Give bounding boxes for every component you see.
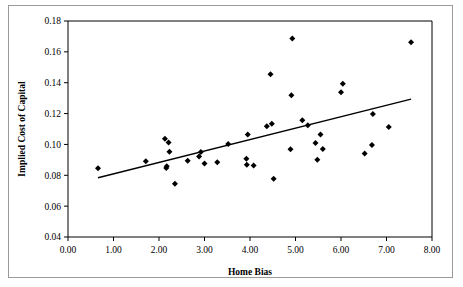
data-point	[172, 181, 178, 187]
y-axis-tick-labels: 0.040.060.080.100.120.140.160.18	[44, 16, 61, 242]
x-tick-label: 1.00	[105, 245, 122, 255]
data-point	[318, 131, 324, 137]
data-point	[299, 117, 305, 123]
y-tick-label: 0.06	[44, 202, 61, 212]
data-point	[370, 111, 376, 117]
data-point	[287, 146, 293, 152]
x-tick-label: 0.00	[60, 245, 77, 255]
data-point	[369, 142, 375, 148]
data-point	[267, 71, 273, 77]
data-point	[313, 140, 319, 146]
x-tick-label: 5.00	[287, 245, 304, 255]
data-point	[288, 92, 294, 98]
data-point	[214, 159, 220, 165]
data-point	[289, 35, 295, 41]
x-tick-label: 8.00	[424, 245, 441, 255]
data-point	[185, 158, 191, 164]
x-tick-label: 3.00	[196, 245, 213, 255]
data-point	[320, 146, 326, 152]
x-tick-label: 6.00	[333, 245, 350, 255]
data-point	[244, 162, 250, 168]
y-tick-label: 0.18	[44, 16, 61, 26]
data-point	[386, 124, 392, 130]
y-tick-label: 0.10	[44, 140, 61, 150]
data-point	[408, 39, 414, 45]
data-point	[362, 151, 368, 157]
axis-tick-marks	[64, 21, 432, 241]
x-tick-label: 2.00	[151, 245, 168, 255]
x-tick-label: 4.00	[242, 245, 259, 255]
y-tick-label: 0.16	[44, 47, 61, 57]
data-point	[271, 176, 277, 182]
x-tick-label: 7.00	[378, 245, 395, 255]
data-point	[166, 139, 172, 145]
data-point	[314, 157, 320, 163]
data-point	[269, 121, 275, 127]
y-tick-label: 0.14	[44, 78, 61, 88]
data-point	[305, 122, 311, 128]
y-tick-label: 0.04	[44, 232, 61, 242]
x-axis-tick-labels: 0.001.002.003.004.005.006.007.008.00	[60, 245, 441, 255]
data-point	[166, 149, 172, 155]
y-axis-title: Implied Cost of Capital	[17, 81, 27, 177]
scatter-chart: 0.040.060.080.100.120.140.160.18 0.001.0…	[0, 0, 463, 287]
y-tick-label: 0.08	[44, 171, 61, 181]
data-point	[243, 156, 249, 162]
data-point	[202, 161, 208, 167]
data-point	[162, 136, 168, 142]
data-point	[245, 132, 251, 138]
data-point	[95, 165, 101, 171]
data-point	[338, 89, 344, 95]
x-axis-title: Home Bias	[228, 267, 272, 277]
data-point	[340, 81, 346, 87]
y-tick-label: 0.12	[44, 109, 61, 119]
data-point	[143, 158, 149, 164]
data-point	[264, 123, 270, 129]
chart-canvas: 0.040.060.080.100.120.140.160.18 0.001.0…	[0, 0, 463, 287]
data-point	[251, 163, 257, 169]
plot-axes	[68, 21, 432, 237]
